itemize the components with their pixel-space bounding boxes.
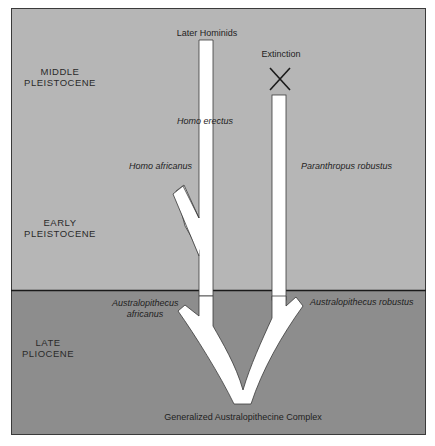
homo-erectus-label: Homo erectus bbox=[177, 116, 233, 127]
paranthropus-robustus-label: Paranthropus robustus bbox=[301, 161, 392, 172]
epoch-label-middle-pleistocene: MIDDLE PLEISTOCENE bbox=[20, 66, 100, 88]
epoch-label-late-pliocene: LATE PLIOCENE bbox=[8, 337, 88, 359]
epoch-line: PLEISTOCENE bbox=[20, 228, 100, 239]
epoch-line: PLIOCENE bbox=[8, 348, 88, 359]
pleistocene-band bbox=[11, 8, 426, 291]
root-label: Generalized Australopithecine Complex bbox=[164, 412, 322, 423]
epoch-line: MIDDLE bbox=[20, 66, 100, 77]
homo-africanus-label: Homo africanus bbox=[129, 161, 192, 172]
extinction-label: Extinction bbox=[261, 49, 300, 60]
epoch-line: PLEISTOCENE bbox=[20, 77, 100, 88]
paranthropus-lineage bbox=[272, 95, 286, 300]
australopithecus-robustus-label: Australopithecus robustus bbox=[310, 297, 414, 308]
australopithecus-africanus-label: Australopithecus africanus bbox=[112, 298, 178, 320]
taxon-line: Australopithecus bbox=[112, 298, 178, 309]
epoch-line: EARLY bbox=[20, 217, 100, 228]
later-hominids-label: Later Hominids bbox=[177, 28, 238, 39]
epoch-line: LATE bbox=[8, 337, 88, 348]
taxon-line: africanus bbox=[112, 309, 178, 320]
epoch-label-early-pleistocene: EARLY PLEISTOCENE bbox=[20, 217, 100, 239]
hominid-lineage-diagram: MIDDLE PLEISTOCENE EARLY PLEISTOCENE LAT… bbox=[0, 0, 435, 446]
